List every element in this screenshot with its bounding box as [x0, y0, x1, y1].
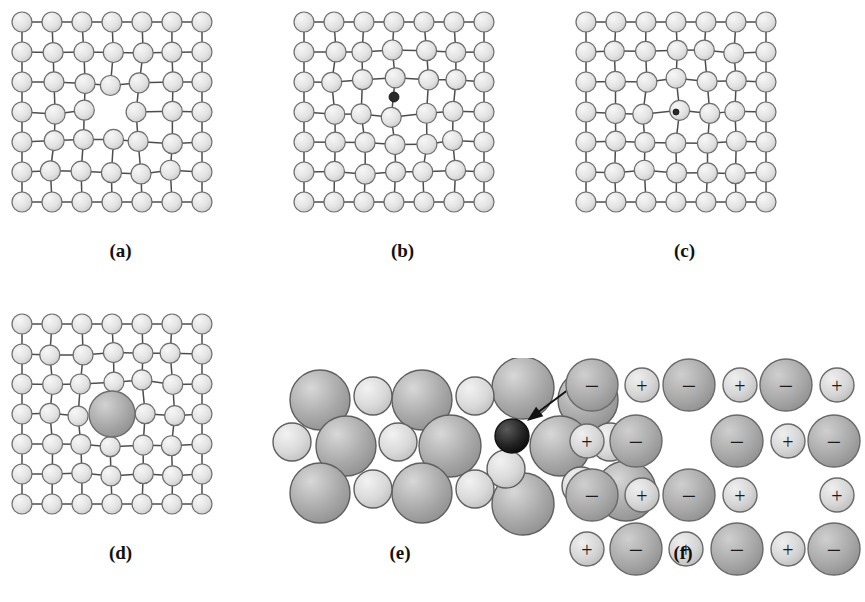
lattice-atom: [165, 406, 185, 426]
lattice-atom: [163, 466, 183, 486]
ion-charge-label: +: [734, 375, 745, 397]
lattice-atom: [44, 72, 64, 92]
lattice-atom: [192, 434, 212, 454]
lattice-atom: [756, 42, 776, 62]
anion-circle: −: [760, 359, 812, 411]
anion-circle: −: [808, 523, 860, 575]
lattice-atom: [12, 72, 32, 92]
lattice-atom: [384, 12, 404, 32]
lattice-atom: [606, 12, 626, 32]
cation-circle: +: [625, 478, 659, 512]
lattice-atom: [474, 42, 494, 62]
lattice-atom: [132, 314, 152, 334]
lattice-atom: [102, 12, 122, 32]
lattice-atom: [446, 70, 466, 90]
lattice-atom: [576, 162, 596, 182]
panel-f: −+−+−++−−+−−+−+++−+−+− (f): [558, 358, 865, 583]
lattice-atom: [444, 12, 464, 32]
lattice-atom: [133, 343, 153, 363]
lattice-atom: [756, 162, 776, 182]
lattice-atom: [635, 132, 655, 152]
lattice-atom: [45, 104, 65, 124]
lattice-atom: [133, 43, 153, 63]
lattice-atom: [163, 375, 183, 395]
lattice-atom: [131, 164, 151, 184]
lattice-atom: [667, 40, 687, 60]
anion-circle: −: [808, 415, 860, 467]
ion-charge-label: +: [831, 375, 842, 397]
lattice-atom: [102, 494, 122, 514]
lattice-atom: [419, 70, 439, 90]
lattice-atom: [12, 132, 32, 152]
lattice-atom: [192, 192, 212, 212]
lattice-atom: [726, 12, 746, 32]
lattice-atom: [135, 404, 155, 424]
interstitial-atom: [389, 92, 399, 102]
cation-circle: +: [570, 424, 604, 458]
lattice-atom: [474, 12, 494, 32]
lattice-atom: [100, 437, 120, 457]
lattice-atom: [42, 12, 62, 32]
lattice-atom: [634, 160, 654, 180]
lattice-atom: [354, 192, 374, 212]
lattice-atom: [40, 403, 60, 423]
lattice-atom: [294, 102, 314, 122]
lattice-atom: [40, 345, 60, 365]
lattice-atom: [294, 12, 314, 32]
lattice-atom: [12, 192, 32, 212]
lattice-atom: [352, 70, 372, 90]
lattice-atom: [474, 102, 494, 122]
lattice-atom: [132, 192, 152, 212]
ion-charge-label: +: [636, 375, 647, 397]
lattice-atom: [576, 102, 596, 122]
lattice-atom: [12, 434, 32, 454]
lattice-atom: [756, 132, 776, 152]
lattice-atom: [576, 72, 596, 92]
host-atom-sphere-small: [354, 470, 392, 508]
lattice-atom: [103, 42, 123, 62]
lattice-atom: [444, 192, 464, 212]
lattice-atom: [192, 162, 212, 182]
cation-circle: +: [723, 368, 757, 402]
lattice-atom: [443, 101, 463, 121]
cation-circle: +: [771, 424, 805, 458]
lattice-atom: [382, 40, 402, 60]
lattice-atom: [443, 130, 463, 150]
lattice-atom: [42, 314, 62, 334]
lattice-atom: [100, 75, 120, 95]
lattice-atom: [129, 73, 149, 93]
lattice-atom: [670, 100, 690, 120]
host-atom-sphere-small: [354, 377, 392, 415]
lattice-atom: [605, 163, 625, 183]
lattice-atom: [756, 72, 776, 92]
lattice-atom: [162, 12, 182, 32]
panel-d-lattice: [8, 310, 233, 535]
lattice-atom: [606, 192, 626, 212]
lattice-atom: [417, 103, 437, 123]
lattice-atom: [355, 164, 375, 184]
anion-circle: −: [663, 359, 715, 411]
lattice-atom: [12, 494, 32, 514]
substitutional-impurity-atom: [89, 391, 135, 437]
lattice-atom: [666, 133, 686, 153]
lattice-atom: [326, 42, 346, 62]
lattice-atom: [474, 192, 494, 212]
lattice-atom: [12, 464, 32, 484]
lattice-atom: [667, 163, 687, 183]
lattice-atom: [446, 42, 466, 62]
lattice-atom: [101, 163, 121, 183]
lattice-atom: [192, 344, 212, 364]
lattice-atom: [71, 161, 91, 181]
lattice-atom: [132, 370, 152, 390]
lattice-atom: [324, 161, 344, 181]
lattice-atom: [474, 162, 494, 182]
lattice-atom: [726, 131, 746, 151]
ion-charge-label: +: [831, 485, 842, 507]
anion-circle: −: [663, 469, 715, 521]
ion-charge-label: −: [827, 536, 842, 565]
lattice-atom: [192, 404, 212, 424]
ion-charge-label: −: [730, 428, 745, 457]
lattice-atom: [126, 102, 146, 122]
lattice-atom: [354, 12, 374, 32]
lattice-atom: [103, 343, 123, 363]
